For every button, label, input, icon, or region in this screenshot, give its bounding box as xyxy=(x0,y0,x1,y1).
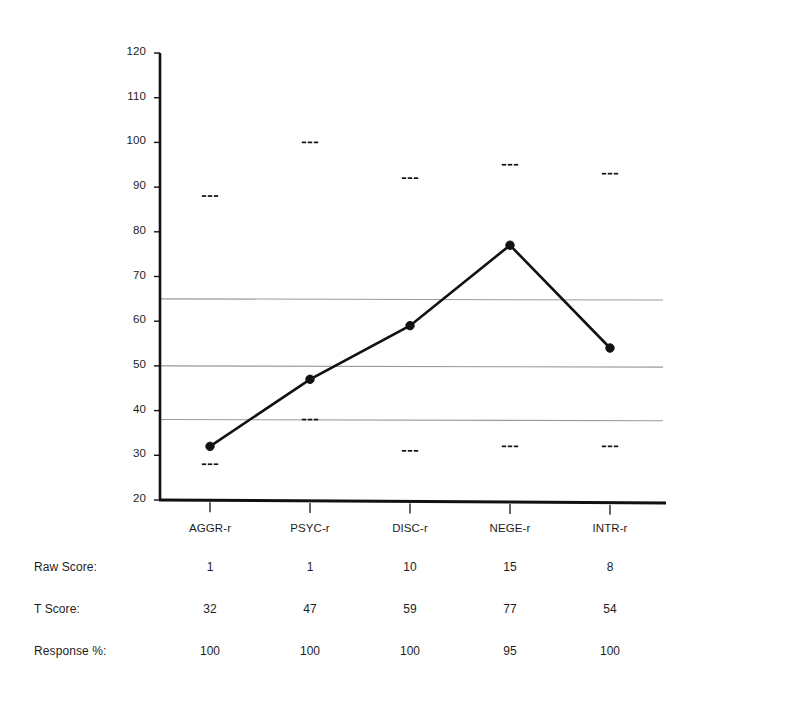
upper-confidence-markers-group xyxy=(202,142,618,196)
table-cell-INTR-r: 8 xyxy=(555,560,665,574)
x-category-label-NEGE-r: NEGE-r xyxy=(455,522,565,534)
table-cell-AGGR-r: 32 xyxy=(155,602,265,616)
table-cell-NEGE-r: 15 xyxy=(455,560,565,574)
x-category-label-PSYC-r: PSYC-r xyxy=(255,522,365,534)
data-point-INTR-r[interactable] xyxy=(606,344,614,352)
gridline-t38 xyxy=(160,420,663,421)
table-cell-PSYC-r: 47 xyxy=(255,602,365,616)
y-tick-label-110: 110 xyxy=(112,90,146,102)
y-tick-label-40: 40 xyxy=(112,403,146,415)
y-tick-label-70: 70 xyxy=(112,269,146,281)
t-score-point-markers-group xyxy=(206,241,614,451)
table-cell-INTR-r: 54 xyxy=(555,602,665,616)
gridline-t50 xyxy=(160,366,663,367)
lower-confidence-markers-group xyxy=(202,420,618,465)
y-tick-label-60: 60 xyxy=(112,313,146,325)
table-cell-PSYC-r: 1 xyxy=(255,560,365,574)
table-cell-DISC-r: 10 xyxy=(355,560,465,574)
table-cell-NEGE-r: 95 xyxy=(455,644,565,658)
t-score-polyline xyxy=(210,245,610,446)
data-point-DISC-r[interactable] xyxy=(406,321,414,329)
table-row: Raw Score:1110158 xyxy=(0,560,810,600)
y-tick-label-80: 80 xyxy=(112,224,146,236)
data-point-NEGE-r[interactable] xyxy=(506,241,514,249)
y-tick-label-120: 120 xyxy=(112,45,146,57)
profile-chart-page: 2030405060708090100110120 AGGR-rPSYC-rDI… xyxy=(0,0,810,710)
score-summary-table: Raw Score:1110158T Score:3247597754Respo… xyxy=(0,540,810,710)
table-cell-AGGR-r: 1 xyxy=(155,560,265,574)
t-score-line-group xyxy=(210,245,610,446)
y-tick-label-90: 90 xyxy=(112,179,146,191)
y-tick-label-100: 100 xyxy=(112,134,146,146)
table-row-label: T Score: xyxy=(34,602,80,616)
y-tick-label-30: 30 xyxy=(112,447,146,459)
table-row: T Score:3247597754 xyxy=(0,602,810,642)
axes-group xyxy=(159,53,666,503)
table-cell-PSYC-r: 100 xyxy=(255,644,365,658)
table-row: Response %:10010010095100 xyxy=(0,644,810,684)
table-cell-DISC-r: 59 xyxy=(355,602,465,616)
data-point-PSYC-r[interactable] xyxy=(306,375,314,383)
gridlines-group xyxy=(160,299,663,421)
table-row-label: Raw Score: xyxy=(34,560,97,574)
table-cell-AGGR-r: 100 xyxy=(155,644,265,658)
x-category-label-DISC-r: DISC-r xyxy=(355,522,465,534)
table-row-label: Response %: xyxy=(34,644,106,658)
x-category-label-AGGR-r: AGGR-r xyxy=(155,522,265,534)
table-cell-NEGE-r: 77 xyxy=(455,602,565,616)
table-cell-DISC-r: 100 xyxy=(355,644,465,658)
x-axis-line xyxy=(159,500,666,503)
x-category-label-INTR-r: INTR-r xyxy=(555,522,665,534)
data-point-AGGR-r[interactable] xyxy=(206,442,214,450)
y-tick-label-20: 20 xyxy=(112,492,146,504)
table-cell-INTR-r: 100 xyxy=(555,644,665,658)
gridline-t65 xyxy=(160,299,663,300)
y-tick-label-50: 50 xyxy=(112,358,146,370)
chart-area: 2030405060708090100110120 AGGR-rPSYC-rDI… xyxy=(0,0,810,540)
x-tick-marks-group xyxy=(210,502,610,514)
